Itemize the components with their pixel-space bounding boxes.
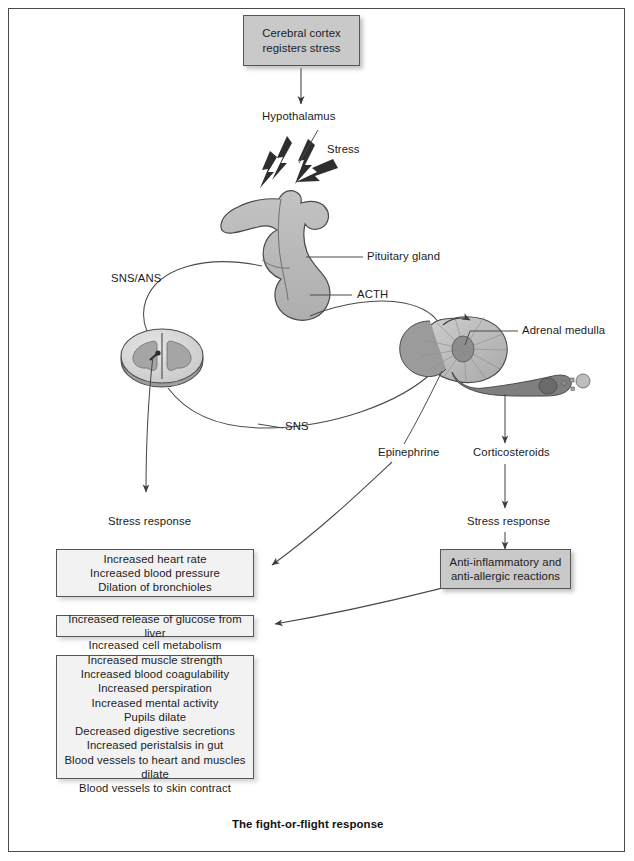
label-hypothalamus: Hypothalamus bbox=[262, 110, 335, 122]
label-pituitary-gland: Pituitary gland bbox=[367, 250, 440, 262]
spinal-cord-cross-section-icon bbox=[121, 329, 203, 387]
box-line: Dilation of bronchioles bbox=[98, 580, 211, 594]
box-line: registers stress bbox=[262, 41, 340, 55]
label-stress-response-right: Stress response bbox=[467, 515, 550, 527]
arrow-epinephrine-to-heart-effects bbox=[272, 462, 392, 565]
box-line: Blood vessels to heart and muscles dilat… bbox=[57, 753, 253, 782]
box-line: Decreased digestive secretions bbox=[75, 724, 235, 738]
box-line: Increased heart rate bbox=[103, 552, 206, 566]
pituitary-gland-icon bbox=[221, 191, 330, 321]
box-line: Increased cell metabolism bbox=[88, 638, 221, 652]
label-epinephrine: Epinephrine bbox=[378, 446, 439, 458]
box-sns-effects: Increased cell metabolism Increased musc… bbox=[56, 655, 254, 779]
figure-caption: The fight-or-flight response bbox=[232, 818, 384, 830]
box-line: anti-allergic reactions bbox=[451, 569, 560, 583]
box-line: Blood vessels to skin contract bbox=[79, 781, 231, 795]
box-line: Increased perspiration bbox=[98, 681, 212, 695]
box-line: Increased peristalsis in gut bbox=[87, 738, 224, 752]
label-sns: SNS bbox=[285, 420, 309, 432]
box-line: Increased muscle strength bbox=[88, 653, 223, 667]
leader-sns bbox=[258, 424, 283, 428]
label-adrenal-medulla: Adrenal medulla bbox=[522, 324, 605, 336]
leader-epinephrine bbox=[404, 371, 442, 444]
box-line: Increased mental activity bbox=[92, 696, 219, 710]
box-line: Anti-inflammatory and bbox=[450, 555, 562, 569]
box-corticosteroid-effects: Anti-inflammatory and anti-allergic reac… bbox=[440, 549, 571, 589]
box-glucose-release: Increased release of glucose from liver bbox=[56, 615, 254, 637]
box-line: Pupils dilate bbox=[124, 710, 186, 724]
label-corticosteroids: Corticosteroids bbox=[473, 446, 550, 458]
label-acth: ACTH bbox=[357, 288, 388, 300]
box-epinephrine-effects: Increased heart rate Increased blood pre… bbox=[56, 549, 254, 597]
box-cerebral-cortex: Cerebral cortex registers stress bbox=[243, 15, 360, 66]
label-stress-response-left: Stress response bbox=[108, 515, 191, 527]
label-stress: Stress bbox=[327, 143, 360, 155]
box-line: Increased release of glucose from liver bbox=[57, 612, 253, 641]
box-line: Increased blood pressure bbox=[90, 566, 220, 580]
box-line: Increased blood coagulability bbox=[81, 667, 230, 681]
box-line: Cerebral cortex bbox=[262, 26, 341, 40]
leader-hypothalamus-to-pituitary bbox=[299, 130, 318, 163]
label-sns-ans: SNS/ANS bbox=[111, 272, 161, 284]
figure-container: Cerebral cortex registers stress Increas… bbox=[0, 0, 634, 861]
